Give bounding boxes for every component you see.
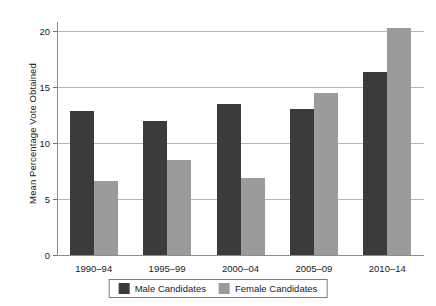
plot-area: 05101520 1990–941995–992000–042005–09201…	[57, 22, 424, 255]
legend-swatch-female-icon	[219, 283, 230, 294]
bar-female-2005–09	[314, 93, 338, 255]
bar-chart: Mean Percentage Vote Obtained 05101520 1…	[0, 0, 436, 306]
y-tick-mark	[53, 31, 57, 32]
y-axis-line	[57, 22, 58, 255]
bar-female-2000–04	[241, 178, 265, 255]
bar-male-1990–94	[70, 111, 94, 256]
legend-item-female[interactable]: Female Candidates	[219, 283, 317, 294]
x-tick-label: 1990–94	[75, 263, 112, 274]
bar-female-1995–99	[167, 160, 191, 255]
x-tick-label: 1995–99	[149, 263, 186, 274]
chart-legend: Male Candidates Female Candidates	[109, 279, 328, 298]
bar-male-1995–99	[143, 121, 167, 255]
bar-male-2000–04	[217, 104, 241, 255]
y-tick-mark	[53, 255, 57, 256]
x-tick-label: 2000–04	[222, 263, 259, 274]
x-axis-line	[57, 255, 424, 256]
gridline	[58, 31, 424, 32]
bar-male-2010–14	[363, 72, 387, 255]
x-tick-label: 2005–09	[295, 263, 332, 274]
y-tick-label: 20	[39, 25, 50, 36]
y-tick-mark	[53, 199, 57, 200]
legend-item-male[interactable]: Male Candidates	[119, 283, 206, 294]
bar-female-1990–94	[94, 181, 118, 255]
y-axis-title: Mean Percentage Vote Obtained	[27, 34, 38, 234]
bar-female-2010–14	[387, 28, 411, 255]
bar-male-2005–09	[290, 109, 314, 255]
y-tick-mark	[53, 87, 57, 88]
legend-label-male: Male Candidates	[135, 283, 206, 294]
legend-swatch-male-icon	[119, 283, 130, 294]
x-tick-label: 2010–14	[369, 263, 406, 274]
y-tick-label: 5	[45, 193, 50, 204]
legend-label-female: Female Candidates	[235, 283, 317, 294]
y-tick-label: 10	[39, 137, 50, 148]
y-tick-mark	[53, 143, 57, 144]
y-tick-label: 15	[39, 81, 50, 92]
y-tick-label: 0	[45, 250, 50, 261]
